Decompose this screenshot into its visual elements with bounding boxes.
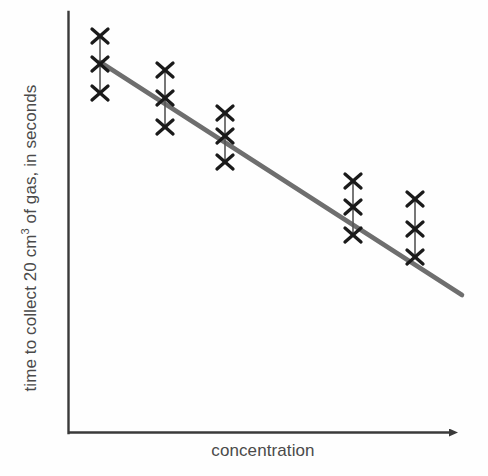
y-axis-label: time to collect 20 cm3 of gas, in second…	[14, 0, 48, 476]
scatter-chart: time to collect 20 cm3 of gas, in second…	[0, 0, 488, 476]
trend-line	[100, 62, 462, 295]
chart-axes	[68, 12, 450, 433]
plot-area	[0, 0, 488, 476]
data-point-cluster	[407, 192, 423, 264]
x-axis-label: concentration	[68, 441, 458, 461]
y-axis-label-suffix: of gas, in seconds	[21, 85, 40, 229]
y-axis-label-prefix: time to collect 20 cm	[21, 234, 40, 391]
y-axis-label-superscript: 3	[19, 228, 31, 234]
data-point-cluster	[345, 174, 361, 242]
